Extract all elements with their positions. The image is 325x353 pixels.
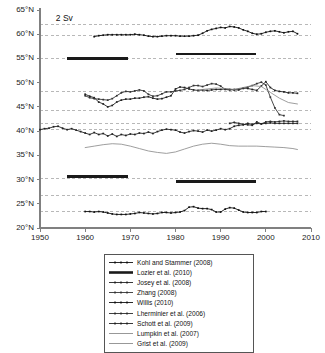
series-0 [93, 26, 298, 38]
legend-item-5: Lherminier et al. (2006) [108, 308, 250, 318]
legend-line-icon [108, 258, 134, 267]
x-tick-label: 2010 [297, 233, 325, 242]
y-tick-label: 60°N [0, 29, 34, 38]
legend-label: Josey et al. (2008) [137, 278, 191, 287]
x-tick-label: 1950 [26, 233, 54, 242]
legend-label: Lozier et al. (2010) [137, 268, 192, 277]
y-tick-label: 45°N [0, 102, 34, 111]
y-tick-label: 25°N [0, 199, 34, 208]
legend-line-icon [108, 298, 134, 307]
y-tick-label: 50°N [0, 78, 34, 87]
y-tick-label: 35°N [0, 150, 34, 159]
legend-label: Lumpkin et al. (2007) [137, 329, 199, 338]
legend-line-icon [108, 288, 134, 297]
legend-label: Willis (2010) [137, 298, 173, 307]
legend-line-icon [108, 319, 134, 328]
y-tick-label: 55°N [0, 53, 34, 62]
legend-line-icon [108, 309, 134, 318]
legend-label: Grist et al. (2009) [137, 339, 188, 348]
legend-line-icon [108, 339, 134, 348]
legend-line-icon [108, 268, 134, 277]
y-tick-label: 30°N [0, 175, 34, 184]
scale-annotation: 2 Sv [56, 13, 73, 23]
legend-label: Lherminier et al. (2006) [137, 309, 205, 318]
x-tick-label: 1990 [207, 233, 235, 242]
legend-item-2: Josey et al. (2008) [108, 277, 250, 287]
legend-item-8: Grist et al. (2009) [108, 339, 250, 349]
legend-item-7: Lumpkin et al. (2007) [108, 328, 250, 338]
x-tick-label: 2000 [252, 233, 280, 242]
legend-item-0: Kohl and Stammer (2008) [108, 257, 250, 267]
x-tick-label: 1970 [116, 233, 144, 242]
chart-legend: Kohl and Stammer (2008)Lozier et al. (20… [104, 254, 254, 353]
legend-item-1: Lozier et al. (2010) [108, 267, 250, 277]
legend-label: Kohl and Stammer (2008) [137, 258, 213, 267]
legend-label: Zhang (2008) [137, 288, 177, 297]
series-5 [85, 143, 297, 153]
x-tick-label: 1980 [162, 233, 190, 242]
legend-item-6: Schott et al. (2009) [108, 318, 250, 328]
series-4 [39, 122, 298, 137]
legend-line-icon [108, 329, 134, 338]
y-tick-label: 65°N [0, 5, 34, 14]
legend-item-3: Zhang (2008) [108, 288, 250, 298]
legend-line-icon [108, 278, 134, 287]
legend-item-4: Willis (2010) [108, 298, 250, 308]
series-7 [84, 206, 266, 215]
y-tick-label: 20°N [0, 223, 34, 232]
legend-label: Schott et al. (2009) [137, 319, 193, 328]
series-2 [84, 81, 284, 116]
y-tick-label: 40°N [0, 126, 34, 135]
x-tick-label: 1960 [71, 233, 99, 242]
